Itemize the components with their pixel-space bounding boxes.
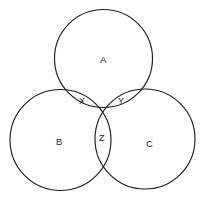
label-circle-b: B [56, 137, 63, 147]
label-intersection-x: X [79, 96, 85, 106]
label-circle-c: C [146, 139, 153, 149]
venn-diagram: A B C X Y Z [0, 0, 203, 202]
label-circle-a: A [100, 55, 107, 65]
venn-circles-canvas [0, 0, 203, 202]
label-intersection-y: Y [118, 96, 124, 106]
circle-c [95, 89, 195, 189]
label-intersection-z: Z [99, 133, 105, 143]
